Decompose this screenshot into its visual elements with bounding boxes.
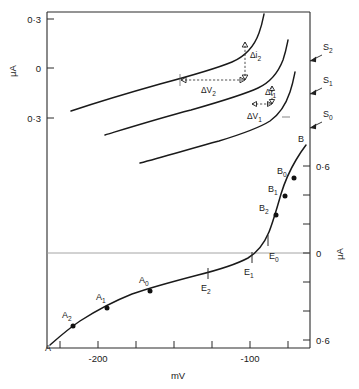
point-label-B1: B1 xyxy=(268,184,278,196)
point-label-E2: E2 xyxy=(201,283,211,295)
point-label-A2: A2 xyxy=(62,310,72,322)
delta-annotation-1: Δi1 ΔV1 xyxy=(247,86,290,123)
plot-frame xyxy=(47,12,310,348)
s-marker-0-label: S0 xyxy=(323,109,333,121)
left-tick-label-bottom: 0·3 xyxy=(27,113,41,124)
inset-curves-group xyxy=(71,14,295,163)
x-tick-label-100: -100 xyxy=(240,353,259,364)
point-label-B2: B2 xyxy=(259,203,269,215)
s1-arrow-head xyxy=(310,90,316,96)
point-marker-A0 xyxy=(148,289,153,294)
plot-svg: 0·3 0 0·3 μA 0·6 0 0·6 μA -200 -100 mV xyxy=(0,0,359,389)
x-tick-label-200: -200 xyxy=(88,353,107,364)
right-tick-label-mid: 0 xyxy=(316,248,321,259)
point-label-B0: B0 xyxy=(277,166,287,178)
point-label-A: A xyxy=(45,343,51,353)
right-tick-label-top: 0·6 xyxy=(316,161,330,172)
left-tick-label-mid: 0 xyxy=(36,63,41,74)
s0-arrow-head xyxy=(310,124,316,130)
bottom-axis: -200 -100 mV xyxy=(60,341,288,381)
s2-arrow-head xyxy=(310,57,316,63)
left-tick-label-top: 0·3 xyxy=(27,14,41,25)
point-label-E1: E1 xyxy=(244,267,254,279)
s-marker-2-label: S2 xyxy=(323,42,333,54)
point-marker-B1 xyxy=(283,194,288,199)
right-main-axis: 0·6 0 0·6 μA xyxy=(303,161,345,346)
delta-i-1-label: Δi1 xyxy=(265,87,276,99)
point-label-B: B xyxy=(298,134,304,144)
delta-v-1-label: ΔV1 xyxy=(247,111,262,123)
delta-v1-arrow-left xyxy=(252,102,257,107)
right-axis-title: μA xyxy=(334,247,345,259)
left-axis-title: μA xyxy=(7,64,18,76)
point-marker-B2 xyxy=(274,213,279,218)
delta-i-2-label: Δi2 xyxy=(250,50,261,62)
delta-annotation-2: Δi2 ΔV2 xyxy=(180,42,261,97)
point-label-A0: A0 xyxy=(139,275,149,287)
s-marker-1-label: S1 xyxy=(323,75,333,87)
s-markers-group: S2 S1 S0 xyxy=(310,42,333,129)
right-tick-label-bottom: 0·6 xyxy=(316,335,330,346)
point-label-A1: A1 xyxy=(96,292,106,304)
main-curve-markers: A A2 A1 A0 E2 E1 E0 B2 B1 B0 B xyxy=(45,134,304,353)
point-marker-B0 xyxy=(292,176,297,181)
delta-v-2-label: ΔV2 xyxy=(201,85,216,97)
figure-container: 0·3 0 0·3 μA 0·6 0 0·6 μA -200 -100 mV xyxy=(0,0,359,389)
x-axis-title: mV xyxy=(171,370,186,381)
point-marker-A1 xyxy=(105,306,110,311)
point-marker-A2 xyxy=(71,324,76,329)
